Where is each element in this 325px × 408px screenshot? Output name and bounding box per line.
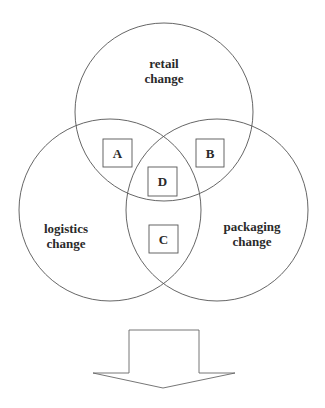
region-box-a: A [103,139,132,167]
region-label-d: D [158,174,167,189]
logistics-label-line1: logistics [44,221,88,236]
packaging-label-line2: change [233,234,272,249]
region-box-c: C [149,225,178,253]
packaging-label-line1: packaging [223,219,281,234]
region-box-d: D [148,167,177,196]
retail-label-line2: change [145,71,184,86]
retail-label-line1: retail [149,56,179,71]
venn-diagram: retail change logistics change packaging… [0,0,325,408]
region-label-b: B [206,146,215,161]
region-label-a: A [113,146,123,161]
region-box-b: B [196,139,224,167]
logistics-label-line2: change [47,236,86,251]
region-label-c: C [159,232,168,247]
down-arrow-icon [93,330,235,388]
